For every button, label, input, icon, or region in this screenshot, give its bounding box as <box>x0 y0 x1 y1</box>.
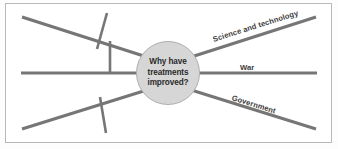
branch-line-lower-left <box>22 89 150 129</box>
branch-line-government <box>188 89 316 129</box>
branch-label-war: War <box>240 63 254 72</box>
center-node-text: Why have treatments improved? <box>148 57 189 89</box>
center-node[interactable]: Why have treatments improved? <box>136 41 200 105</box>
mindmap-canvas: Why have treatments improved? Science an… <box>0 0 338 149</box>
branch-line-upper-left <box>22 17 150 58</box>
